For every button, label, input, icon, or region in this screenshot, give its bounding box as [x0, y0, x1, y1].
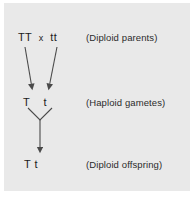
gametes-allele-right: t — [43, 96, 46, 108]
parents-label: (Diploid parents) — [86, 32, 157, 43]
gametes-label: (Haploid gametes) — [86, 97, 165, 108]
gametes-genotype: T t — [23, 96, 47, 108]
gametes-allele-left: T — [23, 96, 30, 108]
parents-genotype: TT x tt — [18, 31, 57, 43]
offspring-label: (Diploid offspring) — [86, 159, 162, 170]
parents-allele-left: TT — [18, 31, 32, 43]
fertilization-v-join-path — [28, 108, 52, 120]
meiosis-arrow-left-line — [25, 47, 32, 85]
parents-allele-right: tt — [50, 31, 57, 43]
offspring-allele-right: t — [34, 158, 37, 170]
meiosis-arrow-right-line — [50, 47, 58, 85]
offspring-allele-left: T — [24, 158, 31, 170]
genetics-cross-diagram: TT x tt (Diploid parents) T t (Haploid g… — [4, 3, 190, 191]
offspring-genotype: T t — [24, 158, 38, 170]
